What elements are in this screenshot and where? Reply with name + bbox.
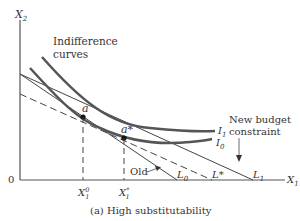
x-axis-label: X1 [286,174,299,188]
y-axis-label: X2 [14,8,28,23]
indifference-curve-i1 [42,57,215,131]
l1-label: L1 [252,169,264,183]
substitutability-diagram: X2 0 X1 Indifference curves New budget c… [0,0,300,221]
point-a-label: a [82,102,89,115]
new-budget-label: New budget [229,114,291,125]
new-budget-label-2: constraint [229,126,281,137]
curve-label-i0: I0 [215,137,225,151]
x1-zero-label: X01 [77,186,89,201]
caption: (a) High substitutability [90,205,212,216]
compensated-budget-line [20,94,212,180]
indifference-curves-label-2: curves [53,48,88,60]
indifference-curves-label: Indifference [53,35,118,47]
point-a-star-label: a* [121,123,134,136]
arrowhead-icon [236,155,242,162]
old-budget-label: Old [130,166,148,177]
x1-star-label: X*1 [118,186,130,201]
l0-label: L0 [176,169,189,183]
lstar-label: L* [211,169,224,180]
origin-label: 0 [8,174,14,185]
